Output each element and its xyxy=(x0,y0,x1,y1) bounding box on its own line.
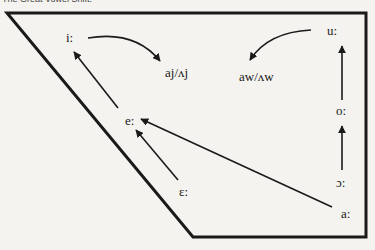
arrow-i-to-aj xyxy=(88,36,160,61)
vowel-u: u: xyxy=(327,24,337,37)
vowel-open-o: ɔ: xyxy=(336,176,345,189)
vowel-i: i: xyxy=(66,31,73,44)
vowel-open-e: ɛ: xyxy=(179,185,188,198)
vowel-trapezoid-diagram xyxy=(0,0,375,250)
vowel-o: o: xyxy=(336,104,346,117)
diphthong-aw: aw/ʌw xyxy=(239,70,274,83)
vowel-e: e: xyxy=(125,114,134,127)
vowel-space-outline xyxy=(7,13,366,237)
diphthong-aj: aj/ʌj xyxy=(165,66,188,79)
arrow-eps-to-e xyxy=(136,130,178,180)
arrow-u-to-aw xyxy=(250,30,311,60)
arrow-a-to-e xyxy=(141,119,332,207)
vowel-a: a: xyxy=(341,207,350,220)
